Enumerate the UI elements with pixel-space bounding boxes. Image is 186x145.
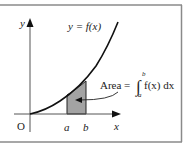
area-label-prefix: Area = bbox=[100, 79, 130, 91]
y-axis-arrow-icon bbox=[27, 18, 34, 27]
origin-label: O bbox=[17, 120, 25, 132]
x-axis-label: x bbox=[113, 120, 119, 132]
integral-upper-limit: b bbox=[142, 70, 146, 78]
area-formula: Area = ∫ b a f(x) dx bbox=[100, 70, 175, 99]
curve-label: y = f(x) bbox=[67, 20, 101, 33]
integral-lower-limit: a bbox=[138, 91, 142, 99]
x-axis-arrow-icon bbox=[112, 111, 121, 118]
integrand: f(x) dx bbox=[144, 79, 175, 92]
y-axis bbox=[27, 18, 34, 132]
y-axis-label: y bbox=[19, 17, 25, 29]
shaded-area-region bbox=[67, 81, 86, 114]
integral-area-diagram: y y = f(x) O a b x Area = ∫ b a f(x) dx bbox=[0, 0, 186, 145]
upper-bound-label: b bbox=[83, 121, 89, 133]
lower-bound-label: a bbox=[64, 121, 70, 133]
